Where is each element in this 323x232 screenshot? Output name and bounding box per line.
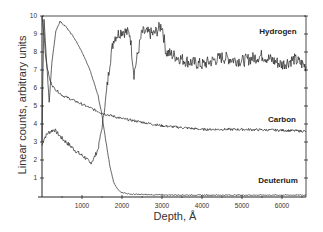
x-tick-label: 6000 bbox=[275, 202, 290, 209]
series-label-hydrogen: Hydrogen bbox=[259, 27, 296, 36]
x-tick-label: 3000 bbox=[155, 202, 170, 209]
y-tick-label: 9 bbox=[33, 30, 37, 37]
series-labels: HydrogenCarbonDeuterium bbox=[258, 27, 298, 185]
series-label-carbon: Carbon bbox=[268, 115, 296, 124]
y-tick-label: 10 bbox=[30, 12, 38, 19]
y-axis-title: Linear counts, arbitrary units bbox=[16, 35, 28, 174]
y-tick-label: 4 bbox=[33, 120, 37, 127]
y-tick-label: 2 bbox=[33, 156, 37, 163]
series-line-hydrogen bbox=[42, 22, 306, 164]
y-tick-label: 6 bbox=[33, 84, 37, 91]
series-line-deuterium bbox=[42, 19, 306, 195]
depth-profile-chart: 12345678910100020003000400050006000 Hydr… bbox=[0, 0, 323, 232]
y-tick-label: 7 bbox=[33, 66, 37, 73]
y-tick-label: 8 bbox=[33, 48, 37, 55]
series-lines bbox=[42, 16, 306, 196]
x-tick-label: 1000 bbox=[75, 202, 90, 209]
y-tick-label: 1 bbox=[33, 174, 37, 181]
x-tick-label: 4000 bbox=[195, 202, 210, 209]
plot-frame bbox=[38, 16, 306, 197]
x-tick-label: 5000 bbox=[235, 202, 250, 209]
y-tick-label: 5 bbox=[33, 102, 37, 109]
x-tick-label: 2000 bbox=[115, 202, 130, 209]
series-label-deuterium: Deuterium bbox=[258, 176, 298, 185]
y-tick-label: 3 bbox=[33, 138, 37, 145]
x-axis-title: Depth, Å bbox=[154, 210, 197, 222]
